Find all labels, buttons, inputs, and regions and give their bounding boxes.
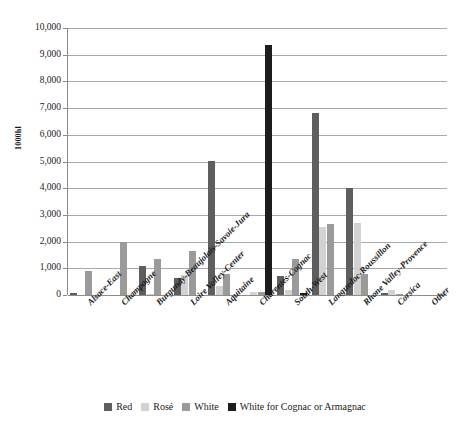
y-axis-tick-label: 6,000 <box>11 130 61 140</box>
legend-item: White <box>182 402 218 412</box>
legend-item: Red <box>104 402 132 412</box>
bar <box>388 290 395 295</box>
bar <box>147 294 154 295</box>
bar-group <box>309 28 343 295</box>
y-axis-tick-mark <box>63 295 67 296</box>
bar <box>285 290 292 295</box>
legend-item: White for Cognac or Armagnac <box>228 402 366 412</box>
y-axis-tick-label: 1,000 <box>11 263 61 273</box>
bar <box>216 286 223 295</box>
bar-group <box>68 28 102 295</box>
bar <box>70 293 77 295</box>
legend-swatch-icon <box>104 403 112 411</box>
y-axis-tick-label: 10,000 <box>11 23 61 33</box>
chart-legend: RedRoséWhiteWhite for Cognac or Armagnac <box>0 402 470 412</box>
legend-item: Rosé <box>141 402 173 412</box>
legend-label: Rosé <box>153 402 173 412</box>
bar <box>381 293 388 295</box>
y-axis-tick-label: 3,000 <box>11 210 61 220</box>
y-axis-tick-label: 2,000 <box>11 237 61 247</box>
legend-label: White <box>194 402 218 412</box>
plot-area <box>67 28 446 295</box>
legend-swatch-icon <box>141 403 149 411</box>
legend-label: White for Cognac or Armagnac <box>240 402 366 412</box>
bar <box>265 45 272 295</box>
legend-swatch-icon <box>228 403 236 411</box>
bar-group <box>102 28 136 295</box>
bar <box>120 242 127 295</box>
y-axis-tick-label: 8,000 <box>11 76 61 86</box>
bar-chart: 1000hl 01,0002,0003,0004,0005,0006,0007,… <box>0 0 470 432</box>
bar <box>250 292 257 295</box>
bar <box>85 271 92 295</box>
y-axis-tick-label: 7,000 <box>11 103 61 113</box>
bar <box>327 224 334 295</box>
y-axis-tick-label: 9,000 <box>11 50 61 60</box>
bar <box>312 113 319 295</box>
y-axis-tick-label: 4,000 <box>11 183 61 193</box>
y-axis-tick-label: 5,000 <box>11 157 61 167</box>
legend-label: Red <box>116 402 132 412</box>
legend-swatch-icon <box>182 403 190 411</box>
y-axis-tick-label: 0 <box>11 290 61 300</box>
bar-group <box>137 28 171 295</box>
